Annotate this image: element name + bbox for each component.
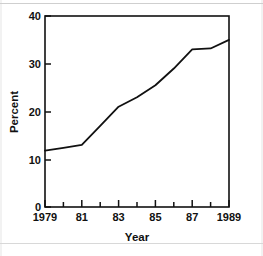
x-axis-title: Year: [125, 231, 150, 243]
x-axis-tick-labels: 1979 81 83 85 87 1989: [33, 211, 241, 223]
x-tick-label-87: 87: [186, 211, 198, 223]
y-tick-label-20: 20: [29, 106, 41, 118]
y-tick-label-40: 40: [29, 10, 41, 22]
x-tick-label-81: 81: [76, 211, 88, 223]
x-tick-label-83: 83: [112, 211, 124, 223]
y-axis-tick-labels: 40 30 20 10 0: [29, 10, 41, 213]
y-axis-title: Percent: [8, 91, 20, 133]
x-axis-ticks: [45, 200, 229, 207]
line-chart: 40 30 20 10 0 Percent 1979 81 83: [0, 0, 263, 256]
x-tick-label-1979: 1979: [33, 211, 57, 223]
plot-frame: [45, 16, 229, 207]
x-tick-label-1989: 1989: [217, 211, 241, 223]
y-axis-ticks: [45, 16, 51, 207]
y-tick-label-30: 30: [29, 58, 41, 70]
data-series-line: [45, 40, 229, 151]
chart-figure: 40 30 20 10 0 Percent 1979 81 83: [0, 0, 263, 256]
y-tick-label-10: 10: [29, 154, 41, 166]
x-tick-label-85: 85: [149, 211, 161, 223]
